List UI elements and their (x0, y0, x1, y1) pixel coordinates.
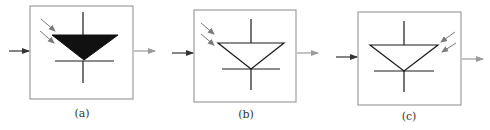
panel-a-light-ray-1 (41, 19, 55, 31)
panel-b-diode-triangle-outline (218, 43, 284, 69)
panel-b-box (194, 10, 296, 102)
panel-a (9, 6, 155, 99)
panel-c-caption: (c) (394, 110, 424, 123)
panel-c-diode-triangle-outline (370, 45, 438, 71)
panel-b (172, 10, 318, 102)
panel-c-light-ray-2 (442, 43, 456, 52)
panel-c (336, 12, 483, 105)
panel-a-caption: (a) (67, 107, 97, 120)
panel-c-light-ray-1 (441, 32, 455, 42)
panel-a-diode-triangle-filled (52, 35, 118, 60)
panel-c-box (358, 12, 461, 105)
panel-b-caption: (b) (231, 108, 261, 121)
panel-b-light-ray-1 (201, 23, 214, 34)
panel-b-light-ray-2 (201, 34, 214, 45)
panel-a-light-ray-2 (40, 31, 54, 43)
